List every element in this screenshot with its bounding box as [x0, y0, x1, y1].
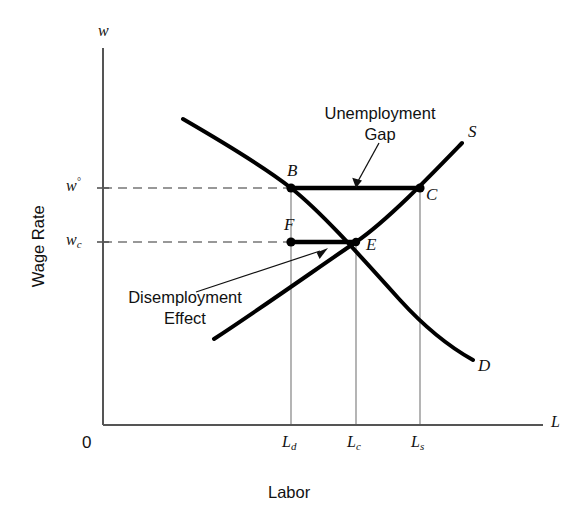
x-tick-base-Ld: L [282, 433, 291, 450]
y-axis-title: Wage Rate [30, 191, 47, 301]
y-tick-label-w-zero: w° [66, 178, 81, 194]
point-F-label: F [284, 216, 294, 233]
x-tick-sub-Lc: c [356, 440, 361, 452]
x-tick-base-Ls: L [411, 433, 420, 450]
x-tick-base-Lc: L [347, 433, 356, 450]
disemployment-effect-annotation: Disemployment Effect [110, 289, 260, 326]
y-tick-base-w-c: w [66, 231, 77, 248]
point-C-dot [415, 183, 424, 192]
point-C-label: C [426, 186, 437, 203]
x-tick-label-Ld: Ld [282, 434, 296, 450]
x-axis-variable-label: L [551, 414, 560, 430]
unemployment-gap-arrow [352, 143, 379, 188]
y-tick-label-w-c: wc [66, 232, 82, 248]
disemployment-effect-arrow [196, 248, 328, 292]
point-B-dot [286, 183, 295, 192]
point-B-label: B [287, 162, 297, 179]
disemployment-effect-line1: Disemployment [110, 289, 260, 306]
x-tick-sub-Ls: s [420, 440, 424, 452]
y-axis-variable-label: w [98, 23, 109, 39]
economics-supply-demand-figure: w L 0 w° wc Ld Lc Ls S D B C F E Unemplo… [0, 0, 588, 520]
y-tick-sup-w-zero: ° [77, 176, 81, 187]
supply-curve-label: S [468, 123, 477, 140]
point-F-dot [286, 237, 295, 246]
x-tick-label-Ls: Ls [411, 434, 424, 450]
unemployment-gap-line1: Unemployment [300, 105, 460, 122]
x-tick-label-Lc: Lc [347, 434, 361, 450]
demand-curve-label: D [478, 357, 490, 374]
y-tick-sub-w-c: c [77, 238, 82, 250]
origin-label: 0 [82, 434, 91, 451]
x-tick-sub-Ld: d [291, 440, 297, 452]
unemployment-gap-line2: Gap [300, 126, 460, 143]
unemployment-gap-annotation: Unemployment Gap [300, 105, 460, 142]
point-E-dot [352, 238, 360, 246]
y-tick-base-w-zero: w [66, 177, 77, 194]
point-E-label: E [366, 236, 376, 253]
disemployment-effect-line2: Effect [110, 310, 260, 327]
x-axis-title: Labor [268, 484, 310, 501]
